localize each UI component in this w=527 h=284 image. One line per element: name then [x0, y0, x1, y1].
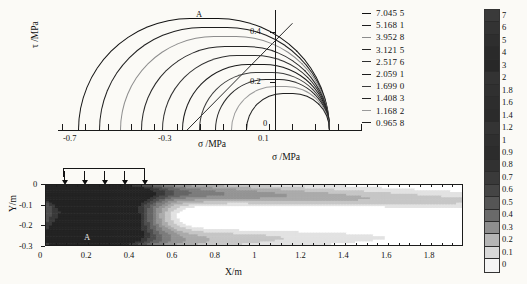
- contour-xtick: [367, 243, 368, 246]
- contour-xtick-top: [99, 184, 100, 187]
- contour-xtick-top: [88, 184, 89, 187]
- contour-xtick: [249, 243, 250, 246]
- contour-panel: 00.20.40.60.811.21.41.61.8 0-0.1-0.2-0.3…: [0, 150, 470, 284]
- contour-xtick: [109, 243, 110, 246]
- contour-xtick: [388, 243, 389, 246]
- legend-dash-icon: [362, 74, 371, 75]
- colorbar-tick-label: 6: [502, 23, 506, 32]
- mohr-xtick-5: [177, 124, 178, 131]
- contour-xtick: [334, 243, 335, 246]
- legend-dash-icon: [362, 13, 371, 14]
- contour-xtick: [184, 243, 185, 246]
- contour-xtick-top: [313, 184, 314, 187]
- contour-xtick-top: [452, 184, 453, 187]
- legend-dash-icon: [362, 49, 371, 50]
- legend-dash-icon: [362, 110, 371, 111]
- contour-xtick: [345, 243, 346, 246]
- colorbar-segment: [485, 172, 499, 184]
- mohr-xtick-4: [154, 124, 155, 131]
- contour-field: [46, 185, 462, 245]
- contour-ytick: [41, 184, 45, 185]
- colorbar-segment: [485, 147, 499, 159]
- contour-xtick-top: [270, 184, 271, 187]
- mohr-ytick-label-1: 0.2: [250, 77, 261, 86]
- contour-cell: [459, 243, 462, 245]
- contour-xtick: [431, 243, 432, 246]
- contour-xtick-top: [141, 184, 142, 187]
- colorbar-segment: [485, 85, 499, 97]
- contour-y-axis-label: Y/m: [8, 195, 18, 212]
- load-arrow-icon: [124, 171, 125, 181]
- colorbar-tick-label: 0.9: [502, 148, 513, 157]
- contour-xtick-top: [356, 184, 357, 187]
- legend-dash-icon: [362, 37, 371, 38]
- contour-xtick-top: [249, 184, 250, 187]
- legend-dash-icon: [362, 122, 371, 123]
- mohr-xtick-label-0: -0.7: [63, 134, 76, 143]
- contour-xtick: [66, 243, 67, 246]
- colorbar-segment: [485, 10, 499, 22]
- load-arrow-icon: [64, 171, 65, 181]
- contour-xtick: [442, 243, 443, 246]
- contour-xtick: [270, 243, 271, 246]
- contour-xtick: [163, 243, 164, 246]
- colorbar-tick-label: 1.4: [502, 111, 513, 120]
- mohr-legend-value: 2.059 1: [376, 69, 404, 79]
- contour-xtick: [195, 243, 196, 246]
- legend-dash-icon: [362, 98, 371, 99]
- contour-ytick: [41, 205, 45, 206]
- contour-xtick: [452, 243, 453, 246]
- contour-xtick-label: 0.8: [209, 251, 220, 260]
- contour-xtick: [99, 243, 100, 246]
- contour-xtick-top: [345, 184, 346, 187]
- contour-xtick: [152, 243, 153, 246]
- colorbar-labels: 7654321.81.61.41.210.90.80.70.60.50.40.3…: [502, 9, 526, 273]
- legend-dash-icon: [362, 61, 371, 62]
- contour-xtick-top: [152, 184, 153, 187]
- contour-xtick-top: [388, 184, 389, 187]
- figure-root: -0.7 -0.3 0.1 0.4 0.2 0 A τ /MPa σ /MPa …: [0, 0, 527, 284]
- mohr-legend-value: 0.965 8: [376, 118, 404, 128]
- contour-xtick-top: [324, 184, 325, 187]
- contour-xtick-top: [442, 184, 443, 187]
- colorbar-tick-label: 3: [502, 61, 506, 70]
- contour-xtick: [216, 243, 217, 246]
- mohr-xtick-11: [315, 124, 316, 131]
- contour-xtick-top: [184, 184, 185, 187]
- colorbar-tick-label: 5: [502, 36, 506, 45]
- mohr-legend-value: 3.952 8: [376, 32, 404, 42]
- contour-xtick-label: 1.4: [338, 251, 349, 260]
- mohr-legend-value: 1.168 2: [376, 106, 404, 116]
- contour-xtick-top: [334, 184, 335, 187]
- contour-xtick-label: 0: [38, 251, 42, 260]
- colorbar-tick-label: 0.4: [502, 210, 513, 219]
- contour-xtick: [409, 243, 410, 246]
- mohr-ytick-0: [270, 32, 276, 33]
- mohr-xtick-0: [62, 124, 63, 131]
- colorbar-tick-label: 4: [502, 48, 506, 57]
- colorbar-segment: [485, 247, 499, 259]
- contour-xtick: [399, 243, 400, 246]
- mohr-legend-row: 0.965 8: [362, 117, 440, 129]
- contour-xtick-top: [259, 184, 260, 187]
- mohr-legend: 7.045 55.168 13.952 83.121 52.517 62.059…: [362, 7, 440, 129]
- contour-xtick-top: [66, 184, 67, 187]
- contour-xtick-top: [56, 184, 57, 187]
- load-arrow-icon: [84, 171, 85, 181]
- mohr-xtick-6: [200, 124, 201, 131]
- colorbar-segment: [485, 222, 499, 234]
- colorbar-segment: [485, 185, 499, 197]
- contour-x-axis-label: X/m: [225, 267, 242, 277]
- contour-xtick: [356, 243, 357, 246]
- legend-dash-icon: [362, 86, 371, 87]
- contour-xtick: [377, 243, 378, 246]
- colorbar-tick-label: 0.6: [502, 185, 513, 194]
- colorbar-tick-label: 0.7: [502, 173, 513, 182]
- colorbar-segment: [485, 122, 499, 134]
- colorbar-tick-label: 1.2: [502, 123, 513, 132]
- contour-xtick-top: [431, 184, 432, 187]
- contour-xtick-top: [45, 184, 46, 187]
- contour-xtick: [281, 243, 282, 246]
- contour-xtick-label: 0.4: [124, 251, 135, 260]
- contour-xtick-top: [377, 184, 378, 187]
